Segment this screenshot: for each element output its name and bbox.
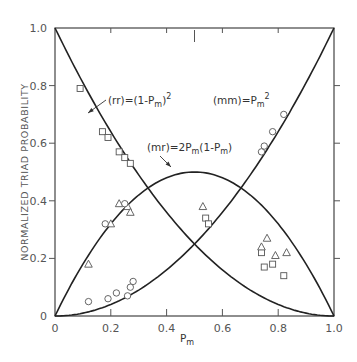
triangle-marker	[272, 252, 280, 259]
y-tick-label: 0	[40, 310, 47, 323]
plot-area: 00.20.40.60.81.000.20.40.60.81.0	[30, 22, 343, 335]
triangle-marker	[263, 234, 271, 241]
square-marker	[261, 264, 267, 270]
square-marker	[258, 250, 264, 256]
circle-marker	[261, 143, 267, 149]
circle-marker	[269, 128, 275, 134]
rr-curve-label: (rr)=(1-Pm)2	[108, 92, 171, 109]
square-marker	[281, 273, 287, 279]
circle-marker	[124, 293, 130, 299]
x-tick-label: 0.6	[214, 322, 232, 335]
square-marker	[99, 129, 105, 135]
y-tick-label: 0.2	[30, 252, 48, 265]
x-tick-label: 1.0	[325, 322, 343, 335]
square-marker	[77, 85, 83, 91]
y-tick-label: 0.8	[30, 80, 48, 93]
circle-marker	[113, 290, 119, 296]
square-marker	[122, 155, 128, 161]
triad-probability-chart: 00.20.40.60.81.000.20.40.60.81.0 NORMALI…	[0, 0, 357, 362]
square-marker	[203, 215, 209, 221]
circle-marker	[130, 278, 136, 284]
y-axis-label: NORMALIZED TRIAD PROBABILITY	[19, 83, 30, 261]
square-marker	[105, 134, 111, 140]
circle-marker	[281, 111, 287, 117]
square-marker	[127, 160, 133, 166]
rr-arrow-head	[88, 108, 94, 113]
mr-curve-label: (mr)=2Pm(1-Pm)	[147, 141, 232, 156]
circle-marker	[122, 200, 128, 206]
circle-marker	[105, 296, 111, 302]
y-tick-label: 1.0	[30, 22, 48, 35]
square-marker	[270, 261, 276, 267]
mm-curve-label: (mm)=Pm2	[213, 92, 270, 109]
triangle-marker	[199, 203, 207, 210]
x-tick-label: 0.2	[102, 322, 120, 335]
square-marker	[116, 149, 122, 155]
x-tick-label: 0.4	[158, 322, 176, 335]
circle-marker	[102, 221, 108, 227]
triangle-marker	[85, 260, 93, 267]
x-axis-label: Pm	[180, 332, 194, 347]
x-tick-label: 0.8	[269, 322, 287, 335]
square-marker	[205, 221, 211, 227]
triangle-marker	[258, 243, 266, 250]
y-tick-label: 0.6	[30, 137, 48, 150]
triangle-marker	[283, 249, 291, 256]
y-tick-label: 0.4	[30, 195, 48, 208]
circle-marker	[85, 298, 91, 304]
x-tick-label: 0	[52, 322, 59, 335]
